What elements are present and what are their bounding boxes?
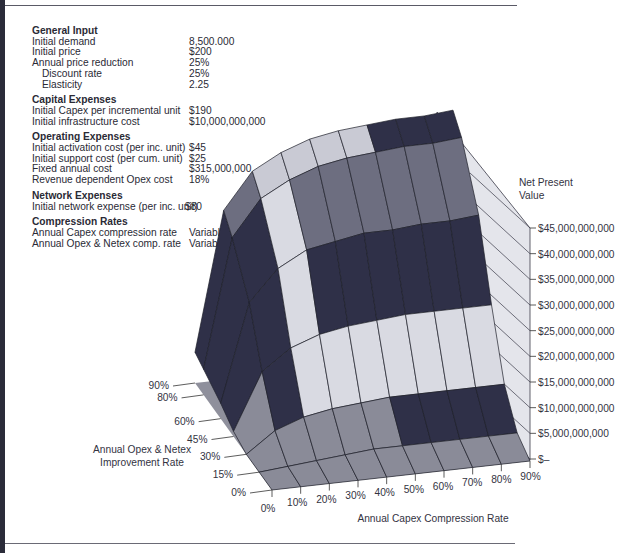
y-tick <box>182 395 204 398</box>
z-axis-title-line1: Net Present <box>519 177 573 188</box>
z-tick-label: $20,000,000,000 <box>538 351 615 362</box>
x-tick-label: 50% <box>404 484 424 495</box>
z-tick-label: $– <box>538 454 550 465</box>
z-tick-label: $10,000,000,000 <box>538 403 615 414</box>
npv-surface-chart: 0%10%20%30%40%50%60%70%80%90%Annual Cape… <box>0 0 634 553</box>
x-tick-label: 80% <box>491 474 511 485</box>
y-tick-label: 60% <box>174 416 194 427</box>
x-tick-label: 30% <box>345 490 365 501</box>
z-tick-label: $5,000,000,000 <box>538 428 609 439</box>
y-tick-label: 0% <box>231 487 246 498</box>
x-tick-label: 10% <box>287 497 307 508</box>
y-tick-label: 90% <box>149 380 169 391</box>
x-tick-label: 20% <box>316 494 336 505</box>
y-axis-title-line2: Improvement Rate <box>100 457 184 468</box>
y-tick <box>237 472 259 475</box>
y-tick <box>173 383 195 386</box>
z-tick-label: $35,000,000,000 <box>538 274 615 285</box>
x-axis-title: Annual Capex Compression Rate <box>357 513 509 524</box>
x-tick-label: 40% <box>374 487 394 498</box>
x-tick-label: 70% <box>462 477 482 488</box>
z-tick-label: $40,000,000,000 <box>538 249 615 260</box>
x-tick-label: 90% <box>520 471 540 482</box>
y-tick-label: 45% <box>187 434 207 445</box>
y-tick <box>250 490 272 493</box>
z-tick-label: $25,000,000,000 <box>538 326 615 337</box>
z-axis-title-line2: Value <box>519 190 545 201</box>
x-tick-label: 60% <box>433 481 453 492</box>
y-tick-label: 15% <box>213 469 233 480</box>
x-tick-label: 0% <box>261 503 276 514</box>
y-tick-label: 30% <box>200 451 220 462</box>
z-tick-label: $15,000,000,000 <box>538 377 615 388</box>
y-axis-title-line1: Annual Opex & Netex <box>93 444 191 455</box>
y-tick <box>199 419 221 422</box>
z-tick-label: $45,000,000,000 <box>538 223 615 234</box>
y-tick <box>212 437 234 440</box>
y-tick <box>224 454 246 457</box>
z-tick-label: $30,000,000,000 <box>538 300 615 311</box>
y-tick-label: 80% <box>157 392 177 403</box>
